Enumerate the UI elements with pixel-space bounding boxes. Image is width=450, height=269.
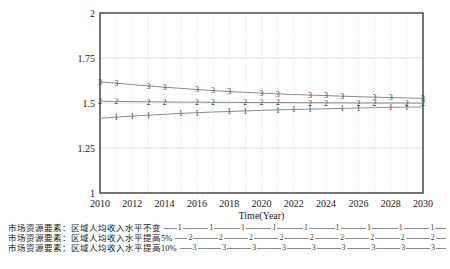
series-marker-3: 3 — [308, 91, 312, 100]
legend-marker-glyph: 3 — [400, 243, 406, 253]
legend-marker-glyph: 3 — [281, 243, 287, 253]
series-marker-2: 2 — [114, 97, 118, 106]
legend-marker-glyph: 2 — [218, 233, 224, 243]
x-axis-title: Time(Year) — [239, 210, 285, 222]
legend-marker-line: 333333333 — [180, 243, 448, 253]
series-marker-2: 2 — [211, 98, 215, 107]
legend-marker-glyph: 3 — [221, 243, 227, 253]
series-marker-1: 1 — [227, 107, 231, 116]
series-marker-3: 3 — [195, 85, 199, 94]
series-marker-3: 3 — [163, 83, 167, 92]
legend-marker-glyph: 1 — [240, 223, 246, 233]
legend-marker-glyph: 3 — [251, 243, 257, 253]
series-marker-1: 1 — [179, 109, 183, 118]
legend-item-label: 市场资源要素：区域人均收入水平不变 — [8, 223, 164, 233]
series-marker-2: 2 — [243, 98, 247, 107]
legend-marker-glyph: 3 — [311, 243, 317, 253]
series-marker-1: 1 — [243, 107, 247, 116]
x-tick-label: 2010 — [90, 198, 110, 209]
x-tick-label: 2028 — [381, 198, 401, 209]
legend-item: 市场资源要素：区域人均收入水平提高5%222222222 — [8, 233, 448, 243]
legend-marker-glyph: 1 — [208, 223, 214, 233]
series-marker-3: 3 — [211, 86, 215, 95]
series-marker-1: 1 — [130, 112, 134, 121]
legend-marker-glyph: 2 — [278, 233, 284, 243]
legend-marker-glyph: 2 — [248, 233, 254, 243]
series-marker-1: 1 — [292, 105, 296, 114]
legend-marker-glyph: 1 — [429, 223, 435, 233]
x-tick-label: 2012 — [122, 198, 142, 209]
legend-marker-glyph: 3 — [370, 243, 376, 253]
y-tick-label: 1.75 — [78, 53, 96, 64]
legend-marker-glyph: 1 — [177, 223, 183, 233]
series-marker-3: 3 — [260, 89, 264, 98]
legend-marker-glyph: 1 — [366, 223, 372, 233]
series-marker-1: 1 — [195, 109, 199, 118]
series-marker-3: 3 — [146, 82, 150, 91]
series-marker-2: 2 — [356, 99, 360, 108]
legend-marker-glyph: 2 — [309, 233, 315, 243]
series-marker-2: 2 — [98, 97, 102, 106]
x-tick-label: 2016 — [187, 198, 207, 209]
simulation-chart-page: 11.251.51.752201020122014201620182020202… — [0, 0, 450, 269]
legend-marker-glyph: 2 — [400, 233, 406, 243]
series-marker-3: 3 — [324, 91, 328, 100]
legend-item-label: 市场资源要素：区域人均收入水平提高5% — [8, 233, 175, 243]
series-marker-2: 2 — [405, 99, 409, 108]
legend-marker-line: 111111111 — [164, 223, 448, 233]
series-marker-1: 1 — [340, 104, 344, 113]
series-marker-3: 3 — [373, 93, 377, 102]
legend-marker-glyph: 3 — [430, 243, 436, 253]
legend-marker-glyph: 2 — [339, 233, 345, 243]
series-marker-3: 3 — [114, 79, 118, 88]
legend-marker-glyph: 1 — [398, 223, 404, 233]
series-marker-2: 2 — [260, 98, 264, 107]
series-marker-3: 3 — [98, 78, 102, 87]
y-tick-label: 2 — [90, 8, 95, 19]
legend-marker-glyph: 1 — [335, 223, 341, 233]
line-chart: 11.251.51.752201020122014201620182020202… — [0, 0, 450, 222]
legend-marker-glyph: 1 — [271, 223, 277, 233]
series-marker-2: 2 — [308, 99, 312, 108]
legend-item-label: 市场资源要素：区域人均收入水平提高10% — [8, 243, 180, 253]
y-tick-label: 1.25 — [78, 143, 96, 154]
legend-marker-line: 222222222 — [175, 233, 448, 243]
legend-item: 市场资源要素：区域人均收入水平不变111111111 — [8, 223, 448, 233]
legend-marker-glyph: 3 — [192, 243, 198, 253]
series-marker-1: 1 — [146, 111, 150, 120]
series-marker-3: 3 — [340, 92, 344, 101]
legend-marker-glyph: 2 — [369, 233, 375, 243]
series-marker-1: 1 — [114, 113, 118, 122]
chart-canvas: 11.251.51.752201020122014201620182020202… — [0, 0, 450, 222]
series-marker-3: 3 — [227, 87, 231, 96]
x-tick-label: 2014 — [155, 198, 175, 209]
legend-marker-glyph: 2 — [187, 233, 193, 243]
legend-marker-glyph: 2 — [430, 233, 436, 243]
series-marker-3: 3 — [421, 94, 425, 103]
x-tick-label: 2022 — [284, 198, 304, 209]
y-tick-label: 1.5 — [83, 98, 96, 109]
legend-marker-glyph: 1 — [303, 223, 309, 233]
x-tick-label: 2030 — [413, 198, 433, 209]
series-marker-2: 2 — [146, 98, 150, 107]
series-marker-3: 3 — [276, 90, 280, 99]
x-tick-label: 2026 — [348, 198, 368, 209]
series-marker-3: 3 — [389, 93, 393, 102]
series-marker-1: 1 — [389, 103, 393, 112]
legend-marker-glyph: 3 — [341, 243, 347, 253]
legend-item: 市场资源要素：区域人均收入水平提高10%333333333 — [8, 243, 448, 253]
series-marker-2: 2 — [276, 98, 280, 107]
series-marker-2: 2 — [163, 98, 167, 107]
y-tick-label: 1 — [90, 188, 95, 199]
x-tick-label: 2020 — [252, 198, 272, 209]
chart-legend: 市场资源要素：区域人均收入水平不变111111111市场资源要素：区域人均收入水… — [8, 223, 448, 253]
x-tick-label: 2018 — [219, 198, 239, 209]
x-tick-label: 2024 — [316, 198, 336, 209]
series-marker-2: 2 — [195, 98, 199, 107]
